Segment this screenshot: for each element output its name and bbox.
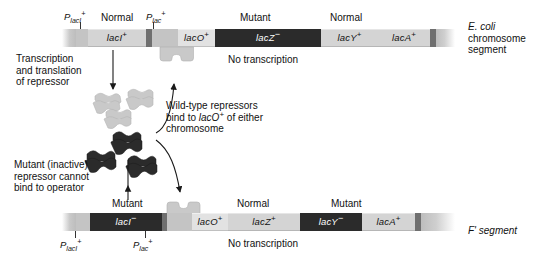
annotation-wildtype-line3: chromosome	[166, 123, 224, 134]
no-transcription-bottom: No transcription	[228, 238, 298, 249]
ecoli-caption-line3: segment	[468, 44, 506, 55]
bottom-promoter-lac-label: Plac+	[133, 238, 153, 252]
top-spacer-2	[152, 29, 178, 47]
top-promoter-lac-tick	[153, 22, 154, 29]
bottom-gene-lacy-label: lacY−	[319, 217, 344, 227]
bottom-gene-lacz-label: lacZ+	[252, 217, 276, 227]
bottom-gene-laca: lacA+	[362, 213, 415, 231]
top-promoter-laci-tick	[80, 22, 81, 29]
top-gene-laco-label: lacO+	[184, 33, 209, 43]
top-backbone-left	[62, 29, 76, 47]
bottom-promoter-laci-tick	[75, 231, 76, 238]
bottom-gene-state-laci: Mutant	[112, 199, 143, 209]
annotation-wildtype-binding: Wild-type repressors bind to lacO+ of ei…	[166, 100, 263, 135]
bottom-backbone-right	[421, 213, 455, 231]
top-gene-state-laci: Normal	[101, 13, 133, 23]
top-gene-lacy-label: lacY+	[337, 33, 361, 43]
ecoli-species-name: E. coli	[468, 21, 495, 32]
chromosome-bottom: lacI− lacO+ lacZ+ lacY− lacA+	[62, 213, 455, 231]
bottom-gene-laco-label: lacO+	[197, 217, 222, 227]
top-promoter-laci-label: PlacI+	[64, 10, 86, 24]
f-segment-caption: F' segment	[468, 225, 517, 237]
top-gene-laca-label: lacA+	[392, 33, 416, 43]
top-spacer-1	[76, 29, 88, 47]
bottom-gene-laci: lacI−	[90, 213, 162, 231]
top-gene-laca: lacA+	[378, 29, 430, 47]
top-gene-laco: lacO+	[178, 29, 215, 47]
bottom-gene-state-lacz: Normal	[237, 199, 269, 209]
annotation-mutant-repressor: Mutant (inactive) repressor cannot bind …	[14, 159, 89, 194]
annotation-mutant-line1: Mutant (inactive)	[14, 159, 88, 170]
bottom-backbone-left	[62, 213, 76, 231]
annotation-transcription-line1: Transcription	[16, 53, 73, 64]
annotation-mutant-line2: repressor cannot	[14, 171, 89, 182]
bottom-gene-laca-label: lacA+	[376, 217, 400, 227]
bottom-gene-lacz: lacZ+	[228, 213, 300, 231]
top-gene-state-lacz: Mutant	[240, 13, 271, 23]
annotation-wildtype-line1: Wild-type repressors	[166, 100, 258, 111]
no-transcription-top: No transcription	[228, 54, 298, 65]
bottom-spacer-1	[76, 213, 90, 231]
bottom-gene-laco: lacO+	[192, 213, 228, 231]
top-gene-state-lacy: Normal	[330, 13, 362, 23]
bottom-gene-laci-label: lacI−	[115, 217, 136, 227]
ecoli-caption-line2: chromosome	[468, 33, 526, 44]
chromosome-top: lacI+ lacO+ lacZ− lacY+ lacA+	[62, 29, 455, 47]
annotation-wildtype-line2: bind to lacO+ of either	[166, 112, 263, 123]
diagram-canvas: Normal Mutant Normal PlacI+ Plac+ lacI+ …	[0, 0, 555, 260]
wild-type-repressor-pool	[93, 89, 153, 128]
annotation-transcription-line3: of repressor	[16, 76, 69, 87]
top-gene-lacz-label: lacZ−	[256, 33, 280, 43]
annotation-transcription-line2: and translation	[16, 65, 82, 76]
top-gene-laci-label: lacI+	[107, 33, 127, 43]
ecoli-chromosome-caption: E. coli chromosome segment	[468, 21, 526, 56]
bottom-gene-lacy: lacY−	[300, 213, 362, 231]
bottom-promoter-lac-tick	[145, 231, 146, 238]
bottom-promoter-laci-label: PlacI+	[60, 238, 82, 252]
f-segment-label: F' segment	[468, 225, 517, 236]
annotation-transcription-translation: Transcription and translation of repress…	[16, 53, 82, 88]
top-gene-laci: lacI+	[88, 29, 146, 47]
arrow-bind-bottom-operator	[156, 140, 180, 192]
top-gene-lacy: lacY+	[321, 29, 378, 47]
annotation-mutant-line3: bind to operator	[14, 182, 84, 193]
top-promoter-lac-label: Plac+	[146, 10, 166, 24]
bottom-spacer-2	[167, 213, 192, 231]
mutant-repressor-pool	[85, 132, 157, 178]
top-backbone-right	[436, 29, 455, 47]
bound-repressor-top	[160, 47, 194, 61]
bottom-gene-state-lacy: Mutant	[331, 199, 362, 209]
top-gene-lacz: lacZ−	[215, 29, 321, 47]
